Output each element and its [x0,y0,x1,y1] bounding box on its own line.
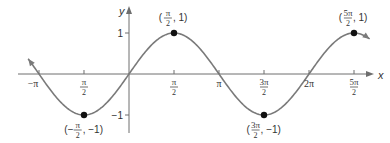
point-label-denominator: 2 [254,131,258,140]
point-label-numerator: π [75,120,80,130]
point-label: (5π2, 1) [339,8,368,28]
x-tick-numerator: 5π [349,77,359,87]
x-tick-label: 5π2 [349,77,359,97]
x-tick-label: −π [28,78,39,89]
sine-graph: −ππ2π2π3π22π5π21−1 (−π2, −1)(π2, 1)(3π2,… [0,0,390,143]
curve-left-arrow-icon [28,59,35,66]
point-label-numerator: 3π [251,120,261,130]
point-label-prefix: ( [159,12,163,23]
x-tick-denominator: 2 [352,88,356,97]
x-tick-numerator: π [172,77,177,87]
axes [18,6,374,133]
point-label-suffix: , −1) [83,124,103,135]
x-tick-denominator: 2 [172,88,176,97]
x-tick-denominator: 2 [262,88,266,97]
point-label-prefix: ( [246,124,250,135]
point-marker [261,112,267,118]
x-tick-denominator: 2 [82,88,86,97]
point-label-denominator: 2 [346,19,350,28]
point-marker [81,112,87,118]
point-label-suffix: , −1) [261,124,281,135]
point-label-numerator: π [166,8,171,18]
y-axis-label: y [118,5,126,17]
x-tick-label: π2 [170,77,178,97]
y-tick-label: 1 [117,28,123,39]
point-label-numerator: 5π [343,8,353,18]
point-label-prefix: ( [339,12,343,23]
point-label-suffix: , 1) [353,12,367,23]
point-label-denominator: 2 [166,19,170,28]
point-label-prefix: (− [64,124,73,135]
x-tick-numerator: 3π [259,77,269,87]
point-label-suffix: , 1) [173,12,187,23]
point-label: (π2, 1) [159,8,188,28]
y-axis-arrow-icon [126,6,132,14]
x-tick-label: 3π2 [259,77,269,97]
x-tick-numerator: π [82,77,87,87]
point-label: (3π2, −1) [246,120,280,140]
x-axis-label: x [377,69,384,81]
point-marker [351,30,357,36]
point-marker [171,30,177,36]
x-tick-label: π2 [80,77,88,97]
x-tick-label: 2π [304,78,314,89]
x-tick-label: π [216,78,221,89]
point-label-denominator: 2 [76,131,80,140]
point-label: (−π2, −1) [64,120,103,140]
x-axis-arrow-icon [366,71,374,77]
y-tick-label: −1 [112,110,124,121]
